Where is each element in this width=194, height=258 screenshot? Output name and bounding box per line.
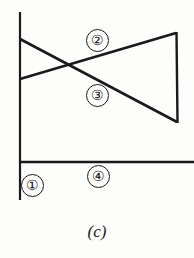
circled-label-2: ② xyxy=(86,29,109,52)
circled-label-3: ③ xyxy=(86,84,109,107)
circled-label-4: ④ xyxy=(87,165,110,188)
figure-panel-c: ① ② ③ ④ (c) xyxy=(0,0,194,258)
right-vertical-segment xyxy=(177,32,178,123)
figure-caption: (c) xyxy=(0,222,194,242)
circled-label-1: ① xyxy=(21,174,44,197)
